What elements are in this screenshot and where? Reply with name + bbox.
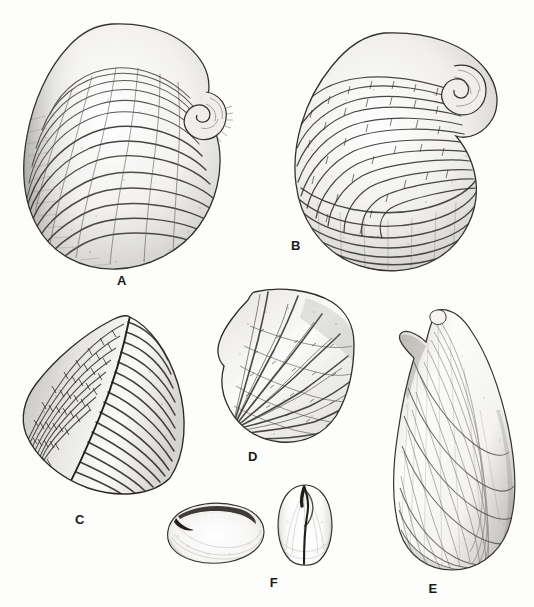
specimen-e-figure xyxy=(388,306,528,576)
specimen-f-dorsal-drawing xyxy=(164,494,268,566)
figure-label-e: E xyxy=(423,582,443,595)
specimen-d-drawing xyxy=(214,284,360,448)
figure-label-b: B xyxy=(286,239,306,252)
figure-label-a: A xyxy=(112,274,132,287)
specimen-e-drawing xyxy=(388,306,528,576)
specimen-d-figure xyxy=(214,284,360,448)
specimen-f-anterior-view xyxy=(274,482,336,570)
specimen-a-drawing xyxy=(20,20,238,272)
figure-label-d: D xyxy=(243,450,263,463)
specimen-e-beak xyxy=(430,310,446,325)
specimen-f-anterior-drawing xyxy=(274,482,336,570)
figure-label-f: F xyxy=(264,576,284,589)
specimen-a-figure xyxy=(20,20,238,272)
specimen-c-drawing xyxy=(20,312,190,500)
specimen-b-figure xyxy=(288,30,510,275)
specimen-f-dorsal-view xyxy=(164,494,268,566)
specimen-c-figure xyxy=(20,312,190,500)
figure-label-c: C xyxy=(70,513,90,526)
specimen-b-drawing xyxy=(288,30,510,275)
illustration-plate: A xyxy=(0,0,534,607)
